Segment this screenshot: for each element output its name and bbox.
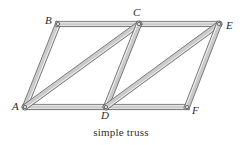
joint-label-a: A: [12, 101, 19, 112]
joint-pin-a: [23, 105, 26, 108]
truss-member: [56, 21, 141, 26]
joint-label-e: E: [226, 20, 233, 31]
truss-members: [22, 21, 223, 111]
truss-member: [23, 104, 108, 109]
joint-pin-b: [56, 22, 59, 25]
joint-pin-f: [185, 105, 188, 108]
joint-label-d: D: [101, 110, 109, 121]
figure-caption: simple truss: [0, 126, 242, 138]
joint-pin-c: [137, 22, 140, 25]
joint-label-b: B: [45, 15, 52, 26]
truss-member: [137, 21, 221, 26]
joint-pin-e: [217, 22, 220, 25]
truss-member: [104, 104, 189, 109]
truss-figure: ABCDEF simple truss: [0, 0, 242, 145]
joint-label-f: F: [192, 105, 199, 116]
truss-diagram: [0, 0, 242, 145]
joint-label-c: C: [133, 7, 140, 18]
